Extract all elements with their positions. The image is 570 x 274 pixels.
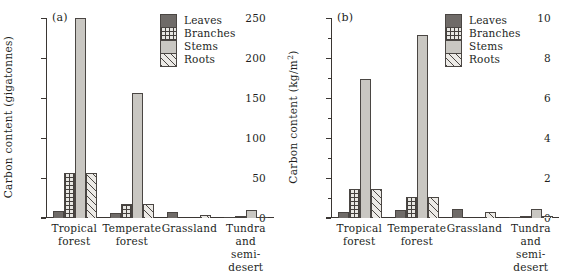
panel-a-category-labels: TropicalforestTemperateforestGrasslandTu… (46, 222, 274, 274)
x-category-label-line: semi-desert (218, 248, 274, 274)
bar-roots (371, 189, 382, 218)
panel-a-legend-labels: LeavesBranchesStemsRoots (184, 14, 236, 66)
bar-leaves (509, 217, 520, 218)
bar-roots (200, 215, 211, 218)
legend-swatch-leaves (161, 15, 176, 27)
x-category-label: Tropicalforest (46, 222, 102, 274)
panel-b-legend-labels: LeavesBranchesStemsRoots (469, 14, 521, 66)
legend-label-stems: Stems (469, 40, 521, 53)
bar-branches (349, 189, 360, 218)
panel-b-y-axis-label-tail: ) (287, 50, 299, 54)
bar-stems (132, 93, 143, 218)
legend-label-branches: Branches (469, 27, 521, 40)
x-category-label-line: forest (387, 235, 446, 248)
panel-b: Carbon content (kg/m2) (b) 0246810 Tropi… (285, 0, 570, 261)
x-category-label-line: forest (331, 235, 387, 248)
legend-label-leaves: Leaves (469, 14, 521, 27)
bar-leaves (338, 212, 349, 218)
bar-stems (531, 209, 542, 218)
bar-roots (485, 212, 496, 218)
panel-b-legend-swatches (445, 14, 462, 67)
bar-roots (542, 216, 553, 218)
legend-swatch-branches (446, 27, 461, 40)
bar-branches (235, 216, 246, 218)
bar-stems (417, 35, 428, 218)
legend-swatch-roots (161, 53, 176, 66)
panel-a-legend-swatches (160, 14, 177, 67)
bar-roots (86, 173, 97, 218)
bar-group (46, 18, 103, 218)
panel-b-y-axis-label-exponent: 2 (286, 55, 295, 60)
legend-swatch-stems (446, 40, 461, 53)
legend-swatch-roots (446, 53, 461, 66)
panel-b-legend: LeavesBranchesStemsRoots (445, 14, 521, 67)
legend-label-leaves: Leaves (184, 14, 236, 27)
bar-stems (246, 210, 257, 218)
panel-b-y-axis-label: Carbon content (kg/m2) (287, 12, 301, 222)
bar-branches (64, 173, 75, 218)
x-category-label-line: Grassland (446, 222, 502, 235)
bar-stems (360, 79, 371, 218)
bar-branches (121, 204, 132, 218)
legend-swatch-leaves (446, 15, 461, 27)
x-category-label-line: Grassland (161, 222, 217, 235)
x-category-label-line: Tropical (331, 222, 387, 235)
bar-group (331, 18, 388, 218)
y-tick (326, 218, 331, 219)
bar-branches (520, 216, 531, 218)
x-category-label: Tundra andsemi-desert (503, 222, 559, 274)
legend-swatch-branches (161, 27, 176, 40)
x-category-label: Temperateforest (102, 222, 161, 274)
panel-b-y-axis-label-main: Carbon content (kg/m (287, 60, 299, 184)
x-category-label-line: forest (46, 235, 102, 248)
bar-leaves (53, 211, 64, 218)
x-category-label-line: Tundra and (503, 222, 559, 248)
bar-leaves (452, 209, 463, 218)
bar-branches (406, 197, 417, 218)
bar-group (388, 18, 445, 218)
x-category-label-line: Temperate (102, 222, 161, 235)
bar-roots (428, 197, 439, 218)
x-category-label: Grassland (446, 222, 502, 274)
panel-a-y-axis-label: Carbon content (gigatonnes) (2, 12, 16, 222)
bar-leaves (110, 213, 121, 218)
x-category-label-line: semi-desert (503, 248, 559, 274)
bar-leaves (167, 212, 178, 218)
panel-a: Carbon content (gigatonnes) (a) 05010015… (0, 0, 285, 261)
bar-group (103, 18, 160, 218)
bar-leaves (395, 210, 406, 218)
x-category-label-line: Tundra and (218, 222, 274, 248)
x-category-label: Grassland (161, 222, 217, 274)
legend-label-roots: Roots (184, 53, 236, 66)
bar-stems (75, 18, 86, 218)
y-tick (41, 218, 46, 219)
legend-label-branches: Branches (184, 27, 236, 40)
panel-b-category-labels: TropicalforestTemperateforestGrasslandTu… (331, 222, 559, 274)
x-category-label-line: Temperate (387, 222, 446, 235)
panel-a-legend: LeavesBranchesStemsRoots (160, 14, 236, 67)
legend-label-roots: Roots (469, 53, 521, 66)
bar-roots (257, 217, 268, 218)
x-category-label-line: forest (102, 235, 161, 248)
bar-leaves (224, 217, 235, 218)
bar-roots (143, 204, 154, 218)
legend-label-stems: Stems (184, 40, 236, 53)
x-category-label: Temperateforest (387, 222, 446, 274)
x-category-label: Tropicalforest (331, 222, 387, 274)
legend-swatch-stems (161, 40, 176, 53)
x-category-label: Tundra andsemi-desert (218, 222, 274, 274)
x-category-label-line: Tropical (46, 222, 102, 235)
